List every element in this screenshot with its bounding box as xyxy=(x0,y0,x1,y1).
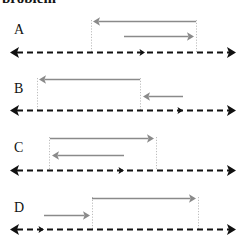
panel-d xyxy=(10,194,236,235)
panel-b xyxy=(10,75,236,116)
panel-label-d: D xyxy=(14,201,24,215)
panel-label-c: C xyxy=(14,141,24,155)
interval-arrow-figure: problem A B C D xyxy=(0,0,246,236)
panel-label-b: B xyxy=(14,82,24,96)
panel-label-a: A xyxy=(14,23,24,37)
figure-canvas xyxy=(0,0,246,236)
panel-c xyxy=(10,134,236,176)
panel-a xyxy=(10,17,236,58)
